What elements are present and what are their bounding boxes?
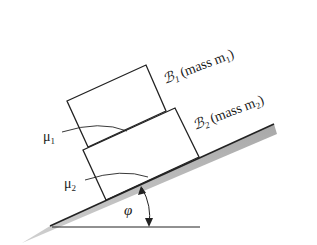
mu1-leader-line bbox=[62, 126, 127, 132]
b1-mass-text: (mass m bbox=[178, 49, 228, 81]
angle-phi-label: φ bbox=[124, 202, 132, 218]
b1-label: ℬ1(mass m1) bbox=[161, 46, 237, 89]
b2-mass-text: (mass m bbox=[208, 95, 258, 127]
incline-surface bbox=[50, 124, 274, 226]
b2-label: ℬ2(mass m2) bbox=[191, 92, 267, 135]
inclined-plane-diagram: ℬ1(mass m1) ℬ2(mass m2) μ1 μ2 φ bbox=[0, 0, 317, 245]
mu2-label: μ2 bbox=[64, 176, 76, 193]
svg-text:ℬ1(mass m1): ℬ1(mass m1) bbox=[161, 46, 237, 89]
angle-arrowhead-bottom bbox=[145, 218, 153, 227]
svg-text:ℬ2(mass m2): ℬ2(mass m2) bbox=[191, 92, 267, 135]
mu1-label: μ1 bbox=[43, 129, 55, 146]
